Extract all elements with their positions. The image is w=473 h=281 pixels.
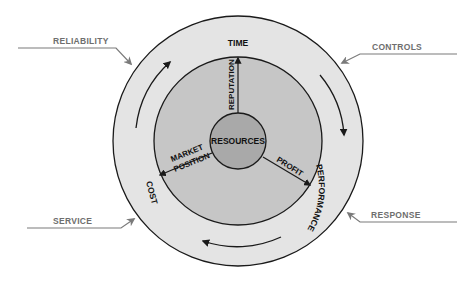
controls-arrow [342,54,457,63]
response-label: RESPONSE [371,210,421,220]
reputation-label: REPUTATION [227,59,236,110]
cycle-diagram: RESOURCES REPUTATION MARKET POSITION PRO… [0,0,473,281]
resources-label: RESOURCES [211,136,265,146]
reliability-label: RELIABILITY [53,36,109,46]
controls-label: CONTROLS [372,42,422,52]
reliability-arrow [18,48,131,64]
time-label: TIME [228,38,249,48]
service-label: SERVICE [53,216,92,226]
